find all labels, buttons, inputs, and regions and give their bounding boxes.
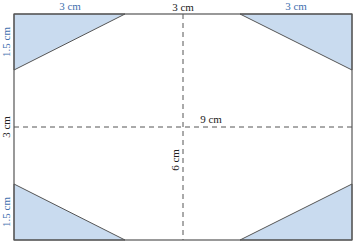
triangle-top-right — [240, 14, 352, 70]
label-top-center-width: 3 cm — [172, 1, 194, 13]
label-left-top-height: 1.5 cm — [0, 27, 12, 57]
triangle-top-left — [14, 14, 125, 70]
label-top-right-width: 3 cm — [285, 0, 307, 12]
triangle-bottom-left — [14, 184, 125, 240]
label-horizontal-length: 9 cm — [200, 113, 222, 125]
label-vertical-length: 6 cm — [169, 149, 181, 171]
label-left-bottom-height: 1.5 cm — [0, 197, 12, 227]
label-top-left-width: 3 cm — [59, 0, 81, 12]
triangle-bottom-right — [240, 184, 352, 240]
net-diagram: 3 cm 3 cm 3 cm 1.5 cm 3 cm 1.5 cm 9 cm 6… — [0, 0, 353, 247]
label-left-middle-height: 3 cm — [0, 116, 12, 138]
